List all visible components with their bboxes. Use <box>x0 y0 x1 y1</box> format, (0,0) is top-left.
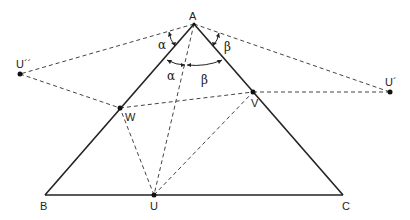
triangle-reflection-diagram: α β α β A B C U U´ U´´ V W <box>0 0 410 220</box>
label-U1: U´ <box>385 76 397 88</box>
segment-U-V <box>154 92 253 195</box>
label-U: U <box>150 200 158 212</box>
label-B: B <box>40 200 47 212</box>
angle-label-beta-inner: β <box>201 73 208 87</box>
segment-U2-W <box>20 74 120 108</box>
label-V: V <box>251 97 259 109</box>
label-A: A <box>189 10 197 22</box>
point-U1 <box>388 90 393 95</box>
point-U2 <box>18 72 23 77</box>
label-W: W <box>125 111 136 123</box>
point-V <box>251 90 256 95</box>
point-W <box>118 106 123 111</box>
angle-label-alpha-inner: α <box>167 69 175 83</box>
segment-A-U2 <box>20 24 194 74</box>
point-A <box>193 23 196 26</box>
segment-W-V <box>120 92 253 108</box>
angle-label-beta-outer: β <box>224 40 231 54</box>
angle-label-alpha-outer: α <box>158 38 166 52</box>
arrowhead-icon <box>187 63 191 67</box>
label-U2: U´´ <box>16 58 31 70</box>
label-C: C <box>342 200 350 212</box>
angle-arc-beta-inner <box>187 60 222 65</box>
point-U <box>152 193 157 198</box>
